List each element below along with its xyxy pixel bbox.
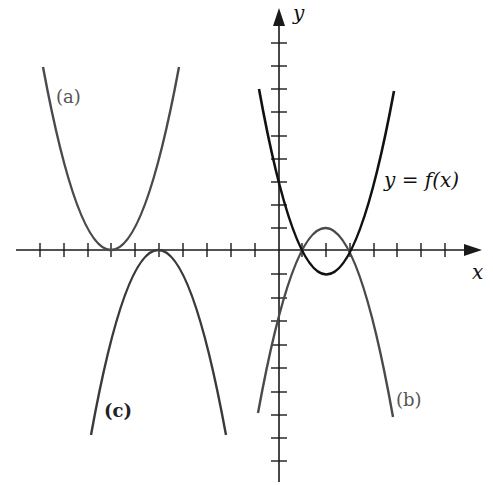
curve-f-label: y = f(x) xyxy=(383,168,459,192)
function-graph: x y (a) (c) xyxy=(0,0,493,485)
x-axis-label: x xyxy=(472,260,483,284)
y-axis-label: y xyxy=(292,1,305,25)
y-axis: y xyxy=(271,1,305,482)
y-axis-arrow-icon xyxy=(273,8,285,26)
x-axis-arrow-icon xyxy=(464,244,482,256)
curve-b-label: (b) xyxy=(396,389,422,410)
curve-c-label: (c) xyxy=(104,400,132,421)
x-axis: x xyxy=(16,243,483,284)
curve-a-label: (a) xyxy=(56,86,81,107)
